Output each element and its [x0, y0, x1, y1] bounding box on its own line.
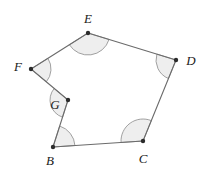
polygon-svg [0, 0, 205, 171]
vertex-dot-g [66, 98, 70, 102]
vertex-label-g: G [50, 98, 59, 111]
vertex-label-e: E [84, 12, 92, 25]
vertex-label-c: C [139, 152, 148, 165]
vertex-dot-f [29, 67, 33, 71]
vertex-label-d: D [186, 54, 195, 67]
vertex-dot-d [174, 58, 178, 62]
vertex-label-f: F [14, 60, 22, 73]
angle-arc-group [31, 33, 176, 147]
vertex-dot-e [86, 31, 90, 35]
angle-arc-f [31, 58, 51, 82]
angle-arc-e [69, 33, 109, 55]
vertex-label-b: B [46, 154, 54, 167]
polygon-edge-cd [143, 60, 176, 141]
vertex-dot-b [51, 145, 55, 149]
vertex-dot-c [141, 139, 145, 143]
geometry-figure: BCDEFG [0, 0, 205, 171]
